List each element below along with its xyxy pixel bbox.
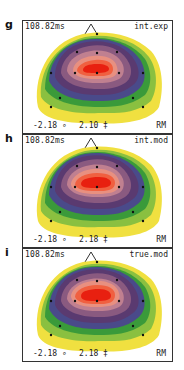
latency-label: 108.82ms	[25, 136, 65, 145]
reference-label: RM	[156, 121, 166, 130]
scale-footer: -2.18 ∘ 2.18 ‡ RM	[23, 349, 172, 360]
scale-footer: -2.18 ∘ 2.10 ‡ RM	[23, 121, 172, 132]
latency-label: 108.82ms	[25, 250, 65, 259]
topomap-panel-g: 108.82ms int.exp -2.18 ∘ 2.10 ‡ RM	[22, 20, 173, 134]
scalp-topography-map	[23, 249, 174, 363]
scale-max: 2.18 ‡	[79, 235, 108, 244]
nose-icon	[85, 252, 97, 262]
topomap-panel-h: 108.82ms int.mod -2.18 ∘ 2.18 ‡ RM	[22, 134, 173, 248]
nose-icon	[85, 138, 97, 148]
panel-label-h: h	[5, 132, 13, 145]
condition-label: int.exp	[134, 22, 168, 31]
latency-label: 108.82ms	[25, 22, 65, 31]
condition-label: true.mod	[129, 250, 168, 259]
head-contour	[37, 32, 162, 123]
reference-label: RM	[156, 235, 166, 244]
scalp-topography-map	[23, 21, 174, 135]
panel-label-g: g	[5, 18, 13, 31]
scale-max: 2.18 ‡	[79, 349, 108, 358]
scale-min: -2.18 ∘	[33, 235, 67, 244]
nose-icon	[85, 24, 97, 34]
reference-label: RM	[156, 349, 166, 358]
topomap-panel-i: 108.82ms true.mod -2.18 ∘ 2.18 ‡ RM	[22, 248, 173, 362]
head-contour	[37, 146, 162, 237]
head-contour	[37, 260, 162, 351]
scale-min: -2.18 ∘	[33, 121, 67, 130]
panel-label-i: i	[5, 246, 9, 259]
condition-label: int.mod	[134, 136, 168, 145]
scale-footer: -2.18 ∘ 2.18 ‡ RM	[23, 235, 172, 246]
scale-min: -2.18 ∘	[33, 349, 67, 358]
scalp-topography-map	[23, 135, 174, 249]
scale-max: 2.10 ‡	[79, 121, 108, 130]
